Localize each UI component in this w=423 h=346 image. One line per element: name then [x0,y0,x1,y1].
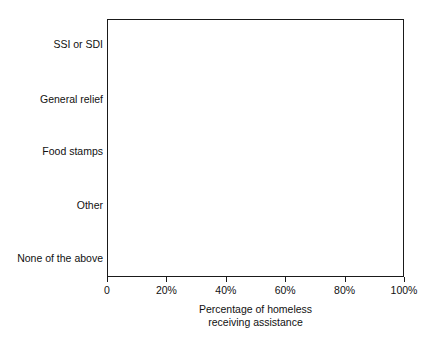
y-axis-label-1: General relief [3,93,103,105]
x-axis-ticks [107,277,404,283]
y-axis-label-2: Food stamps [3,145,103,157]
x-tick-label: 40% [215,284,236,296]
x-tick-mark [404,277,405,282]
x-tick-mark [107,277,108,282]
x-axis-title: Percentage of homeless receiving assista… [107,303,404,329]
x-axis-title-line-2: receiving assistance [107,316,404,329]
x-tick-label: 0 [104,284,110,296]
chart-page: SSI or SDI General relief Food stamps Ot… [0,0,423,346]
x-tick-mark [226,277,227,282]
y-axis-label-3: Other [3,199,103,211]
x-axis-title-line-1: Percentage of homeless [107,303,404,316]
y-axis-label-0: SSI or SDI [3,38,103,50]
x-tick-label: 100% [391,284,418,296]
x-tick-label: 20% [156,284,177,296]
plot-area [107,19,404,277]
x-tick-label: 80% [334,284,355,296]
y-axis-labels: SSI or SDI General relief Food stamps Ot… [0,19,103,277]
x-tick-mark [345,277,346,282]
x-tick-label: 60% [275,284,296,296]
y-axis-label-4: None of the above [3,252,103,264]
x-axis-tick-labels: 020%40%60%80%100% [107,284,404,298]
x-tick-mark [285,277,286,282]
x-tick-mark [166,277,167,282]
